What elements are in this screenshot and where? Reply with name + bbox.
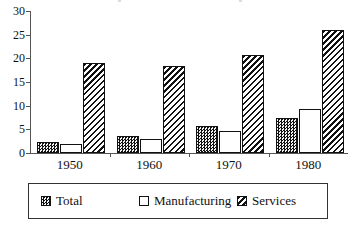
bar-services-1960 xyxy=(163,66,185,153)
bar-total-1970 xyxy=(196,126,218,153)
legend-label: Total xyxy=(56,194,83,208)
legend-item-manufacturing[interactable]: Manufacturing xyxy=(139,194,231,208)
legend-items: TotalManufacturingServices xyxy=(29,184,327,218)
legend-label: Manufacturing xyxy=(154,194,231,208)
legend-label: Services xyxy=(252,194,296,208)
bar-total-1960 xyxy=(117,136,139,153)
bar-chart: 051015202530 1950196019701980 TotalManuf… xyxy=(0,0,355,228)
bar-manufacturing-1950 xyxy=(60,144,82,153)
hatch-swatch xyxy=(237,196,247,206)
x-tick-label: 1970 xyxy=(216,158,242,172)
bar-manufacturing-1980 xyxy=(299,109,321,153)
x-tick-label: 1960 xyxy=(136,158,162,172)
legend: TotalManufacturingServices xyxy=(28,183,328,219)
x-axis-category-labels: 1950196019701980 xyxy=(0,158,355,174)
bar-total-1980 xyxy=(276,118,298,153)
bar-manufacturing-1960 xyxy=(140,139,162,153)
empty-swatch xyxy=(139,196,149,206)
plot-area: 051015202530 1950196019701980 xyxy=(0,0,355,172)
bar-services-1970 xyxy=(242,55,264,153)
legend-item-total[interactable]: Total xyxy=(41,194,83,208)
x-tick-label: 1980 xyxy=(295,158,321,172)
bar-total-1950 xyxy=(37,142,59,153)
bar-services-1980 xyxy=(322,30,344,153)
bar-services-1950 xyxy=(83,63,105,153)
x-tick-label: 1950 xyxy=(57,158,83,172)
bar-manufacturing-1970 xyxy=(219,131,241,153)
legend-item-services[interactable]: Services xyxy=(237,194,296,208)
bars-layer xyxy=(0,0,355,172)
checker-swatch xyxy=(41,196,51,206)
